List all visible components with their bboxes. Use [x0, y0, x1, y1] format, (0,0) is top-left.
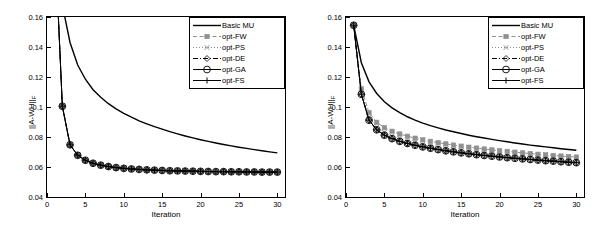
- left-xaxis-title: Iteration: [46, 210, 286, 219]
- legend-label: opt-DE: [222, 53, 245, 64]
- x-tick: [576, 193, 577, 197]
- x-tick-label: 5: [382, 200, 386, 209]
- legend-label: opt-FW: [521, 31, 546, 42]
- y-tick-label: 0.04: [18, 193, 43, 202]
- legend-item: opt-PS: [491, 42, 580, 53]
- y-tick-label: 0.16: [317, 13, 342, 22]
- x-tick: [384, 193, 385, 197]
- y-tick-label: 0.14: [317, 43, 342, 52]
- x-tick: [239, 193, 240, 197]
- legend-label: opt-DE: [521, 53, 544, 64]
- legend-label: opt-PS: [222, 42, 245, 53]
- x-tick: [461, 193, 462, 197]
- left-yaxis-title-sub: F: [31, 96, 37, 100]
- y-tick: [346, 137, 350, 138]
- x-tick-label: 10: [120, 200, 128, 209]
- y-tick-label: 0.04: [317, 193, 342, 202]
- legend-item: opt-GA: [192, 64, 281, 75]
- legend-item: opt-DE: [491, 53, 580, 64]
- x-tick-label: 25: [235, 200, 243, 209]
- legend-sample-icon: [491, 20, 521, 31]
- right-yaxis-title-main: ||A-WH||: [326, 99, 335, 129]
- right-yaxis-title: ||A-WH||F: [326, 52, 337, 172]
- figure-container: 0510152025300.040.060.080.10.120.140.16 …: [0, 0, 598, 241]
- y-tick: [346, 17, 350, 18]
- right-yaxis-title-sub: F: [330, 96, 336, 100]
- legend-item: opt-FW: [192, 31, 281, 42]
- x-tick: [85, 193, 86, 197]
- right-chart-panel: 0510152025300.040.060.080.10.120.140.16 …: [299, 0, 598, 241]
- legend-sample-icon: [491, 64, 521, 75]
- x-tick-label: 30: [572, 200, 580, 209]
- legend-item: opt-DE: [192, 53, 281, 64]
- legend-label: opt-FW: [222, 31, 247, 42]
- y-tick: [47, 77, 51, 78]
- x-tick: [162, 193, 163, 197]
- x-tick: [538, 193, 539, 197]
- x-tick-label: 15: [158, 200, 166, 209]
- legend-label: Basic MU: [521, 20, 553, 31]
- y-tick: [346, 107, 350, 108]
- left-yaxis-title-main: ||A-WH||: [27, 99, 36, 129]
- x-tick: [277, 193, 278, 197]
- y-tick: [47, 167, 51, 168]
- x-tick: [423, 193, 424, 197]
- legend-sample-icon: [491, 42, 521, 53]
- x-tick: [124, 193, 125, 197]
- legend-item: Basic MU: [491, 20, 580, 31]
- right-xaxis-title: Iteration: [345, 210, 585, 219]
- x-tick-label: 0: [344, 200, 348, 209]
- legend-sample-icon: [192, 53, 222, 64]
- legend-label: opt-FS: [521, 75, 544, 86]
- legend-sample-icon: [491, 31, 521, 42]
- legend-item: opt-FW: [491, 31, 580, 42]
- legend-item: opt-FS: [192, 75, 281, 86]
- x-tick: [500, 193, 501, 197]
- x-tick-label: 30: [273, 200, 281, 209]
- x-tick-label: 20: [495, 200, 503, 209]
- x-tick-label: 10: [419, 200, 427, 209]
- x-tick-label: 25: [534, 200, 542, 209]
- y-tick-label: 0.16: [18, 13, 43, 22]
- y-tick: [47, 17, 51, 18]
- y-tick: [346, 197, 350, 198]
- legend-sample-icon: [192, 42, 222, 53]
- legend-sample-icon: [192, 75, 222, 86]
- legend-item: opt-GA: [491, 64, 580, 75]
- y-tick: [346, 167, 350, 168]
- y-tick: [47, 47, 51, 48]
- legend-sample-icon: [192, 64, 222, 75]
- left-yaxis-title: ||A-WH||F: [27, 52, 38, 172]
- legend-item: opt-PS: [192, 42, 281, 53]
- x-tick-label: 5: [83, 200, 87, 209]
- legend-sample-icon: [192, 20, 222, 31]
- y-tick-label: 0.14: [18, 43, 43, 52]
- legend-label: opt-GA: [521, 64, 545, 75]
- x-tick-label: 0: [45, 200, 49, 209]
- legend-sample-icon: [192, 31, 222, 42]
- right-legend: Basic MUopt-FWopt-PSopt-DEopt-GAopt-FS: [488, 17, 584, 89]
- legend-sample-icon: [491, 75, 521, 86]
- legend-item: Basic MU: [192, 20, 281, 31]
- x-tick-label: 20: [196, 200, 204, 209]
- y-tick: [346, 47, 350, 48]
- legend-label: opt-GA: [222, 64, 246, 75]
- legend-label: opt-FS: [222, 75, 245, 86]
- y-tick: [47, 137, 51, 138]
- x-tick: [201, 193, 202, 197]
- x-tick-label: 15: [457, 200, 465, 209]
- y-tick: [346, 77, 350, 78]
- legend-label: Basic MU: [222, 20, 254, 31]
- legend-label: opt-PS: [521, 42, 544, 53]
- y-tick: [47, 107, 51, 108]
- y-tick: [47, 197, 51, 198]
- legend-item: opt-FS: [491, 75, 580, 86]
- left-legend: Basic MUopt-FWopt-PSopt-DEopt-GAopt-FS: [189, 17, 285, 89]
- left-chart-panel: 0510152025300.040.060.080.10.120.140.16 …: [0, 0, 299, 241]
- legend-sample-icon: [491, 53, 521, 64]
